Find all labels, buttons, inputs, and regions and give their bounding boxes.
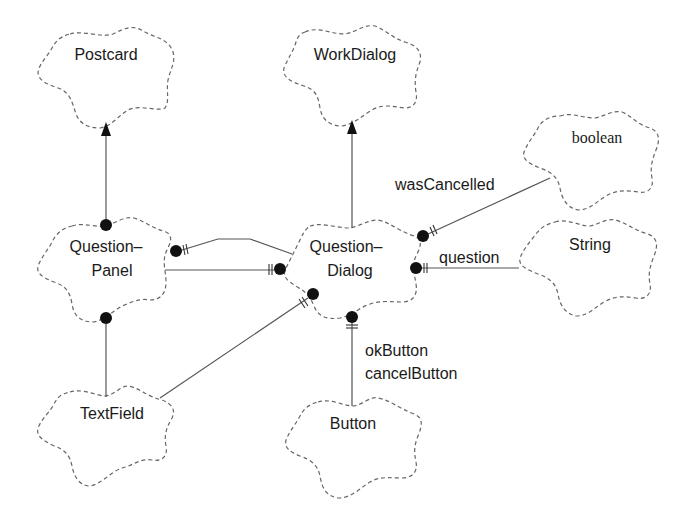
edge-questiondialog-workdialog xyxy=(347,120,357,228)
edge-questiondialog-questionpanel xyxy=(170,239,292,257)
class-name: TextField xyxy=(80,405,144,422)
edge-questiondialog-string: question xyxy=(410,249,519,274)
edge-questionpanel-textfield xyxy=(100,312,112,397)
class-name-line2: Panel xyxy=(92,262,133,279)
role-okButton: okButton xyxy=(365,342,428,359)
cloud-shape xyxy=(520,220,657,316)
class-name: Postcard xyxy=(74,46,137,63)
association-dot-icon xyxy=(307,288,319,300)
class-questionpanel: Question– Panel xyxy=(38,218,171,322)
association-dot-icon xyxy=(410,262,422,274)
association-dot-icon xyxy=(100,312,112,324)
class-name: boolean xyxy=(572,129,623,146)
cloud-shape xyxy=(284,26,421,126)
class-questiondialog: Question– Dialog xyxy=(284,220,420,319)
association-dot-icon xyxy=(417,230,429,242)
class-name: Button xyxy=(330,415,376,432)
edge-questionpanel-questiondialog xyxy=(165,263,286,275)
class-name-line1: Question– xyxy=(70,238,143,255)
class-name: WorkDialog xyxy=(314,46,396,63)
class-button: Button xyxy=(286,398,422,498)
edge-questiondialog-button: okButton cancelButton xyxy=(346,311,458,406)
cloud-shape xyxy=(524,112,659,210)
role-question: question xyxy=(439,249,500,266)
class-diagram: Postcard WorkDialog boolean String Quest… xyxy=(0,0,677,530)
class-postcard: Postcard xyxy=(38,28,174,128)
class-name: String xyxy=(569,236,611,253)
class-workdialog: WorkDialog xyxy=(284,26,421,126)
role-wasCancelled: wasCancelled xyxy=(394,176,495,193)
class-textfield: TextField xyxy=(38,386,174,486)
edge-questiondialog-textfield xyxy=(160,288,319,398)
edge-questiondialog-boolean: wasCancelled xyxy=(394,176,550,242)
class-string: String xyxy=(520,220,657,316)
association-dot-icon xyxy=(346,311,358,323)
association-dot-icon xyxy=(274,263,286,275)
association-dot-icon xyxy=(170,245,182,257)
role-cancelButton: cancelButton xyxy=(365,365,458,382)
class-name-line2: Dialog xyxy=(327,262,372,279)
class-name-line1: Question– xyxy=(310,238,383,255)
cloud-shape xyxy=(38,28,174,128)
cloud-shape xyxy=(38,386,174,486)
association-dot-icon xyxy=(100,219,112,231)
edge-questionpanel-postcard xyxy=(100,122,112,231)
class-boolean: boolean xyxy=(524,112,659,210)
cloud-shape xyxy=(286,398,422,498)
